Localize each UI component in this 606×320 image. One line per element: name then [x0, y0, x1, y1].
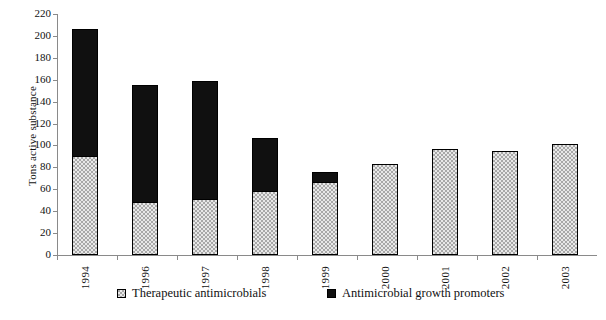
y-tick-label-60: 60 [7, 183, 51, 194]
bar-segment-therapeutic-2001[interactable] [432, 149, 458, 255]
bar-segment-promoters-1999[interactable] [312, 172, 338, 182]
bar-group-1996[interactable] [132, 14, 158, 255]
bar-segment-therapeutic-1996[interactable] [132, 202, 158, 255]
x-tick-mark-1996 [117, 255, 118, 260]
bar-group-2003[interactable] [552, 14, 578, 255]
figure-caption-truncated [150, 311, 590, 320]
legend-swatch-promoters-icon [327, 289, 336, 298]
bar-segment-promoters-1997[interactable] [192, 81, 218, 199]
bar-segment-therapeutic-2002[interactable] [492, 151, 518, 255]
legend-entry-promoters: Antimicrobial growth promoters [327, 286, 504, 301]
x-tick-mark-1994 [57, 255, 58, 260]
bar-segment-promoters-1998[interactable] [252, 138, 278, 192]
x-tick-mark-2001 [417, 255, 418, 260]
chart-figure: Tons active substance 020406080100120140… [0, 0, 606, 320]
y-tick-label-100: 100 [7, 139, 51, 150]
y-tick-label-0: 0 [7, 249, 51, 260]
bar-group-1994[interactable] [72, 14, 98, 255]
legend-label-therapeutic: Therapeutic antimicrobials [132, 286, 266, 301]
x-axis-line [57, 255, 597, 256]
x-tick-mark-2000 [357, 255, 358, 260]
x-tick-mark-2002 [477, 255, 478, 260]
chart-legend: Therapeutic antimicrobials Antimicrobial… [0, 286, 606, 302]
y-tick-label-120: 120 [7, 118, 51, 129]
y-tick-label-160: 160 [7, 74, 51, 85]
bar-group-2002[interactable] [492, 14, 518, 255]
y-tick-label-140: 140 [7, 96, 51, 107]
bar-group-1999[interactable] [312, 14, 338, 255]
y-tick-label-220: 220 [7, 8, 51, 19]
bar-segment-therapeutic-2000[interactable] [372, 164, 398, 255]
y-tick-label-180: 180 [7, 52, 51, 63]
y-tick-label-200: 200 [7, 30, 51, 41]
bar-group-1997[interactable] [192, 14, 218, 255]
bar-segment-therapeutic-1998[interactable] [252, 191, 278, 255]
bar-segment-therapeutic-2003[interactable] [552, 144, 578, 255]
x-tick-mark-2003 [537, 255, 538, 260]
plot-area: 020406080100120140160180200220 199419961… [57, 14, 597, 255]
y-tick-label-40: 40 [7, 205, 51, 216]
x-tick-mark-1998 [237, 255, 238, 260]
bar-group-1998[interactable] [252, 14, 278, 255]
bar-segment-promoters-1994[interactable] [72, 29, 98, 156]
legend-label-promoters: Antimicrobial growth promoters [342, 286, 504, 301]
y-axis-title: Tons active substance [26, 41, 38, 231]
bar-segment-therapeutic-1994[interactable] [72, 156, 98, 255]
bar-segment-promoters-1996[interactable] [132, 85, 158, 202]
bar-segment-therapeutic-1999[interactable] [312, 182, 338, 255]
x-tick-mark-1999 [297, 255, 298, 260]
x-tick-mark-1997 [177, 255, 178, 260]
y-tick-label-20: 20 [7, 227, 51, 238]
bar-segment-therapeutic-1997[interactable] [192, 199, 218, 255]
legend-swatch-therapeutic-icon [117, 289, 126, 298]
y-tick-label-80: 80 [7, 161, 51, 172]
bar-series-container [57, 14, 597, 255]
bar-group-2000[interactable] [372, 14, 398, 255]
bar-group-2001[interactable] [432, 14, 458, 255]
legend-entry-therapeutic: Therapeutic antimicrobials [117, 286, 266, 301]
